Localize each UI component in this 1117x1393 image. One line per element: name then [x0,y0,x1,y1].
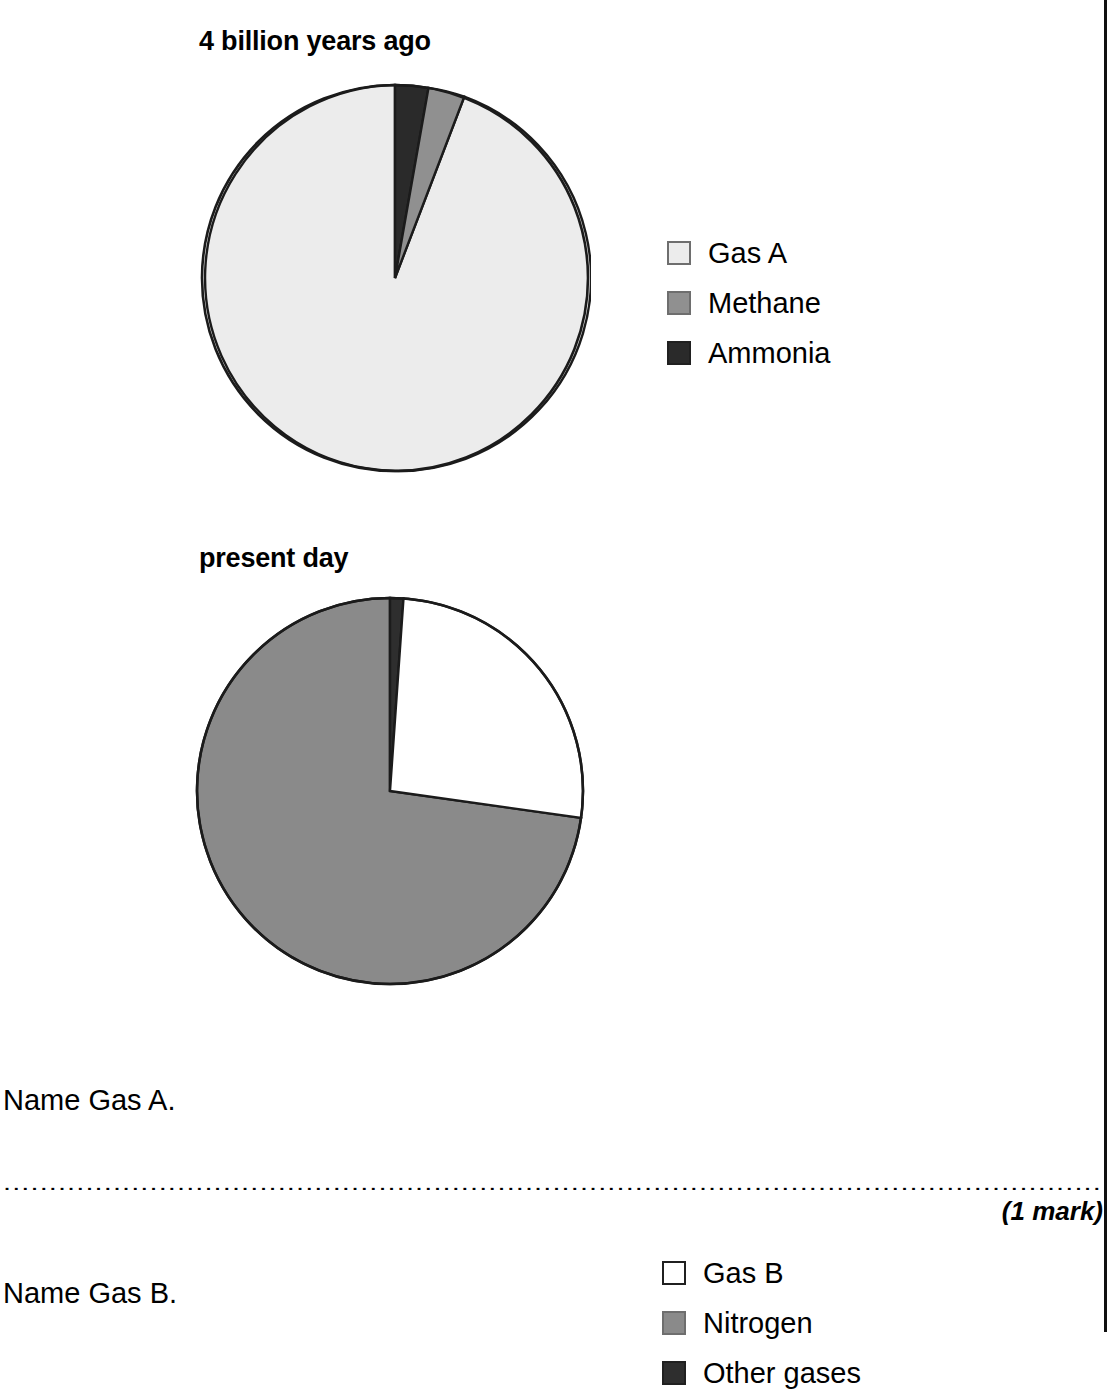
pie-chart-present [194,595,586,987]
legend-label-gas-a: Gas A [708,239,787,268]
question-b-text: Name Gas B. [3,1278,1101,1310]
figure-present-day: present day Gas B Nitrogen [0,520,1104,1040]
legend-item-other-gases: Other gases [662,1348,861,1393]
legend-item-ammonia: Ammonia [667,328,831,378]
chart-title-past: 4 billion years ago [199,26,431,57]
chart-title-present: present day [199,543,348,574]
legend-swatch-ammonia [667,341,691,365]
legend-label-nitrogen: Nitrogen [703,1309,813,1338]
legend-present: Gas B Nitrogen Other gases [662,1248,861,1393]
question-name-gas-a: Name Gas A. [3,1085,1101,1117]
question-name-gas-b: Name Gas B. [3,1278,1101,1310]
legend-label-other-gases: Other gases [703,1359,861,1388]
legend-label-ammonia: Ammonia [708,339,831,368]
pie-svg-present [194,595,586,987]
legend-swatch-other-gases [662,1361,686,1385]
pie-svg-past [199,82,591,474]
legend-swatch-methane [667,291,691,315]
legend-item-methane: Methane [667,278,831,328]
pie-chart-past [199,82,591,474]
legend-label-methane: Methane [708,289,821,318]
legend-swatch-gas-a [667,241,691,265]
page-right-rule [1104,0,1107,1332]
legend-past: Gas A Methane Ammonia [667,228,831,378]
legend-item-gas-a: Gas A [667,228,831,278]
question-a-text: Name Gas A. [3,1085,1101,1117]
answer-line-a[interactable]: ........................................… [3,1176,1101,1190]
marks-label-a: (1 mark) [1002,1196,1103,1227]
figure-4-billion-years-ago: 4 billion years ago Gas A Methane [0,0,1104,520]
pie-slice-gas-b [390,599,583,818]
legend-swatch-nitrogen [662,1311,686,1335]
